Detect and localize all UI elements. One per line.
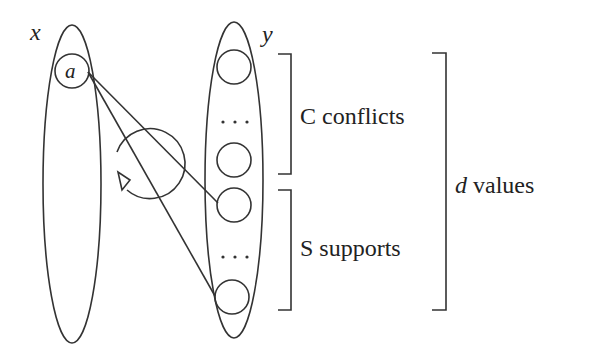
- conflicts-label: C conflicts: [300, 103, 405, 129]
- constraint-diagram: x a y C conflicts S supports d values: [0, 0, 591, 359]
- y-value-circle-support-1: [217, 188, 251, 222]
- y-value-circle-conflict-last: [217, 143, 251, 177]
- conflicts-bracket: [278, 54, 291, 174]
- supports-label: S supports: [300, 235, 401, 261]
- edge-a-to-first-support: [88, 72, 218, 203]
- conflict-ellipsis: [221, 120, 248, 123]
- supports-bracket: [278, 190, 291, 310]
- d-values-bracket: [432, 53, 446, 310]
- edge-a-to-last-support: [88, 72, 215, 296]
- y-value-circle-conflict-1: [217, 50, 251, 84]
- support-ellipsis: [221, 255, 248, 258]
- value-a-label: a: [65, 59, 76, 83]
- y-domain-ellipse: [205, 22, 263, 338]
- loop-arrow-arc: [117, 129, 185, 199]
- d-values-label: d values: [455, 172, 534, 198]
- y-value-circle-support-last: [215, 280, 249, 314]
- loop-arrowhead-icon: [118, 172, 130, 190]
- y-label: y: [260, 21, 273, 47]
- x-label: x: [29, 19, 41, 45]
